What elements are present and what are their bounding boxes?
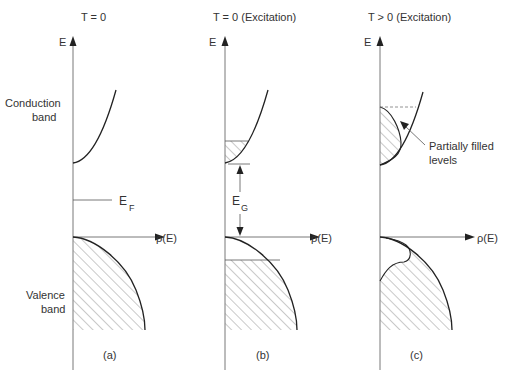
panel-c-energy-axis-label: E bbox=[364, 36, 371, 48]
band-diagram: T = 0 E Conduction band E F Valence band… bbox=[0, 0, 514, 375]
panel-a-valence-fill bbox=[73, 237, 153, 330]
panel-c-annotation-2: levels bbox=[429, 154, 458, 166]
panel-b-caption: (b) bbox=[256, 349, 269, 361]
panel-b-energy-axis-label: E bbox=[209, 36, 216, 48]
panel-a: T = 0 E Conduction band E F Valence band… bbox=[5, 11, 165, 370]
panel-a-valence-label-2: band bbox=[41, 303, 65, 315]
panel-a-caption: (a) bbox=[103, 349, 116, 361]
panel-b-gap-subscript: G bbox=[241, 203, 248, 213]
panel-c-annotation: Partially filled bbox=[429, 140, 494, 152]
panel-b-title: T = 0 (Excitation) bbox=[213, 11, 296, 23]
panel-a-conduction-label: Conduction bbox=[5, 97, 61, 109]
panel-a-fermi-label: E bbox=[119, 194, 127, 208]
panel-c: T > 0 (Excitation) E Partially filled le… bbox=[311, 11, 498, 370]
panel-a-valence-label: Valence bbox=[26, 289, 65, 301]
panel-a-fermi-subscript: F bbox=[129, 203, 135, 213]
panel-b-dos-axis-label: ρ(E) bbox=[311, 232, 332, 244]
panel-a-title: T = 0 bbox=[81, 11, 106, 23]
panel-a-conduction-label-2: band bbox=[32, 111, 56, 123]
panel-a-energy-axis-arrow-icon bbox=[70, 36, 77, 46]
panel-c-title: T > 0 (Excitation) bbox=[368, 11, 451, 23]
panel-c-dos-axis-label: ρ(E) bbox=[477, 232, 498, 244]
panel-a-dos-axis-label: ρ(E) bbox=[156, 232, 177, 244]
panel-b: T = 0 (Excitation) E E G ρ(E) (b) bbox=[156, 11, 320, 370]
panel-b-gap-arrow-up-icon bbox=[237, 165, 244, 174]
panel-a-energy-axis-label: E bbox=[59, 36, 66, 48]
panel-b-gap-arrow-down-icon bbox=[237, 227, 244, 236]
panel-c-caption: (c) bbox=[410, 349, 423, 361]
panel-c-energy-axis-arrow-icon bbox=[377, 36, 384, 46]
panel-b-conduction-fill bbox=[225, 141, 248, 163]
panel-c-dos-axis-arrow-icon bbox=[465, 234, 475, 241]
panel-a-conduction-band-curve bbox=[73, 90, 116, 163]
panel-b-gap-label: E bbox=[232, 194, 240, 208]
panel-b-valence-fill bbox=[225, 260, 305, 330]
panel-b-energy-axis-arrow-icon bbox=[222, 36, 229, 46]
panel-c-conduction-fill bbox=[380, 107, 401, 165]
